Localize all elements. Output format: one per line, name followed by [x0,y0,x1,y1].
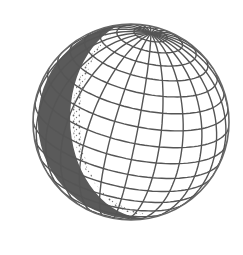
globe-illustration [0,0,243,255]
sphere-body [33,24,229,220]
